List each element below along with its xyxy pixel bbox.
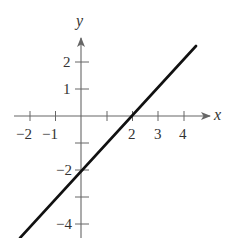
x-axis-label: x [213,106,221,123]
line-series [20,46,196,238]
x-tick-label: −2 [16,126,32,142]
y-tick-label: −4 [56,216,72,232]
x-tick-label: 3 [154,126,162,142]
x-tick-label: 2 [128,126,136,142]
x-tick-label: 4 [179,126,187,142]
y-ticks [75,62,89,224]
x-tick-label: −1 [42,126,58,142]
y-tick-label: 1 [63,81,71,97]
y-axis-label: y [74,12,84,30]
y-tick-label: 2 [63,54,71,70]
y-tick-label: −2 [56,162,72,178]
graph: y x −2 −1 2 3 4 2 1 −2 −4 [0,0,226,238]
